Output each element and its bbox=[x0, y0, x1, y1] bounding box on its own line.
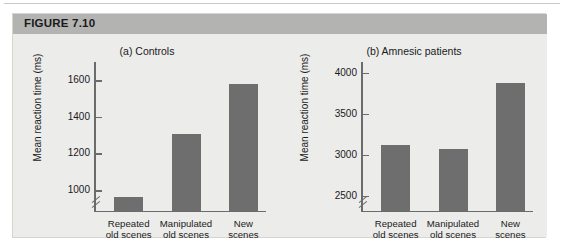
chart-panel-a: (a) Controls Mean reaction time (ms) 100… bbox=[16, 34, 278, 237]
page-top-rule bbox=[4, 3, 560, 4]
chart-a-bar bbox=[114, 197, 143, 210]
figure-body: (a) Controls Mean reaction time (ms) 100… bbox=[13, 34, 547, 237]
chart-b-y-tick-label: 2500 bbox=[335, 190, 357, 201]
chart-a-y-tick-label: 1200 bbox=[68, 147, 90, 158]
chart-a-y-axis-label: Mean reaction time (ms) bbox=[32, 53, 43, 163]
chart-b-plot-area: 2500300035004000 bbox=[361, 62, 533, 212]
chart-a-y-tick-label: 1400 bbox=[68, 111, 90, 122]
chart-b-bar bbox=[381, 145, 410, 211]
chart-b-title: (b) Amnesic patients bbox=[283, 45, 545, 57]
chart-b-y-tick-label: 3500 bbox=[335, 108, 357, 119]
chart-b-y-axis-line bbox=[361, 62, 363, 212]
chart-b-bar bbox=[496, 83, 525, 211]
chart-a-plot-area: 1000120014001600 bbox=[94, 62, 266, 212]
chart-b-y-tick-label: 3000 bbox=[335, 149, 357, 160]
chart-a-title: (a) Controls bbox=[16, 45, 278, 57]
chart-b-y-tick-mark bbox=[362, 155, 369, 157]
figure-number-label: FIGURE 7.10 bbox=[24, 17, 95, 29]
chart-b-y-axis-label: Mean reaction time (ms) bbox=[299, 53, 310, 163]
chart-a-y-tick-label: 1600 bbox=[68, 74, 90, 85]
chart-b-category-label: Newscenes bbox=[465, 218, 555, 240]
figure-page: FIGURE 7.10 (a) Controls Mean reaction t… bbox=[0, 0, 566, 250]
chart-a-y-tick-mark bbox=[95, 190, 102, 192]
chart-a-category-label: Newscenes bbox=[198, 218, 288, 240]
chart-b-y-tick-mark bbox=[362, 114, 369, 116]
figure-panel: FIGURE 7.10 (a) Controls Mean reaction t… bbox=[12, 13, 546, 238]
chart-b-y-tick-mark bbox=[362, 73, 369, 75]
chart-a-y-tick-mark bbox=[95, 117, 102, 119]
chart-a-bar bbox=[172, 134, 201, 210]
chart-a-y-tick-mark bbox=[95, 153, 102, 155]
figure-header-band: FIGURE 7.10 bbox=[13, 14, 547, 34]
chart-b-y-tick-label: 4000 bbox=[335, 67, 357, 78]
chart-b-axis-break-icon bbox=[357, 196, 368, 208]
chart-a-axis-break-icon bbox=[90, 196, 101, 208]
chart-a-bar bbox=[229, 84, 258, 211]
chart-a-y-tick-mark bbox=[95, 80, 102, 82]
chart-a-category-labels: Repeatedold scenesManipulatedold scenesN… bbox=[94, 212, 266, 238]
chart-a-y-tick-label: 1000 bbox=[68, 184, 90, 195]
chart-b-bar bbox=[439, 149, 468, 211]
chart-b-category-labels: Repeatedold scenesManipulatedold scenesN… bbox=[361, 212, 533, 238]
chart-panel-b: (b) Amnesic patients Mean reaction time … bbox=[283, 34, 545, 237]
